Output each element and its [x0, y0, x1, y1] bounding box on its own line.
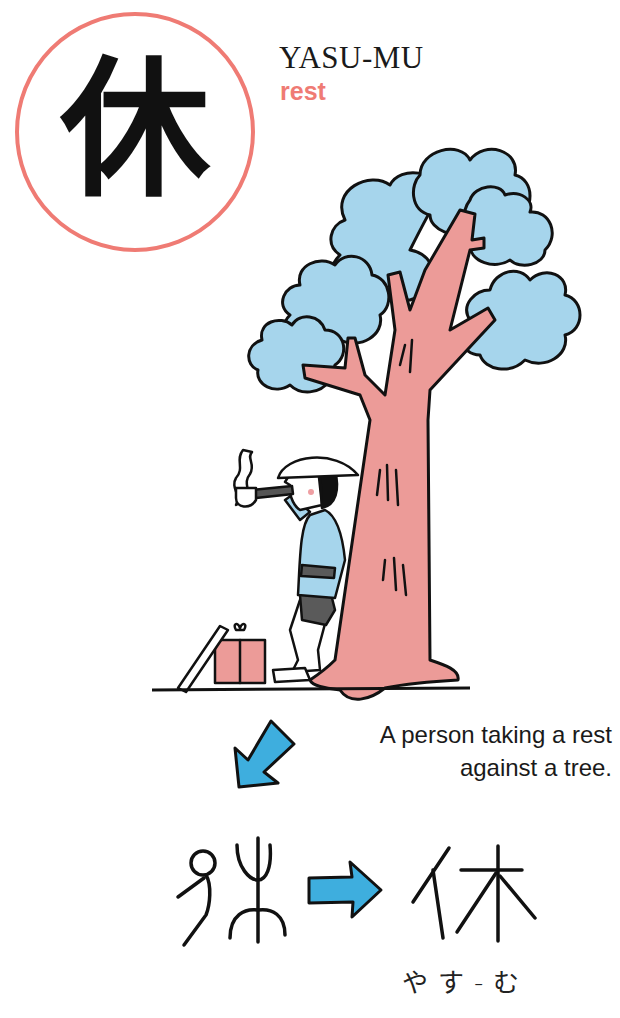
caption-line-1: A person taking a rest — [380, 718, 612, 751]
caption: A person taking a rest against a tree. — [380, 718, 612, 784]
ground-line — [152, 688, 470, 690]
reading-kana: やす-む — [402, 962, 529, 999]
right-arrow-icon — [309, 862, 381, 917]
illustration — [0, 0, 620, 1018]
down-left-arrow-icon — [235, 721, 294, 787]
ancient-glyph — [178, 838, 285, 945]
caption-line-2: against a tree. — [380, 751, 612, 784]
person-illustration — [178, 450, 358, 692]
modern-glyph — [413, 846, 535, 941]
